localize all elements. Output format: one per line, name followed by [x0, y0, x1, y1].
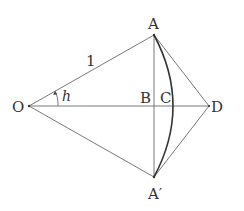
- label-radius: 1: [86, 52, 96, 70]
- segment-OA-prime: [29, 106, 154, 177]
- point-O-dot: [28, 105, 30, 107]
- point-D-dot: [208, 105, 210, 107]
- label-D: D: [211, 98, 223, 116]
- label-A-prime: A′: [147, 185, 163, 203]
- label-angle-h: h: [62, 88, 71, 104]
- label-O: O: [12, 98, 24, 116]
- label-B: B: [140, 89, 151, 107]
- label-C: C: [160, 89, 171, 107]
- point-A-prime-dot: [153, 176, 155, 178]
- label-A: A: [147, 15, 159, 33]
- point-A-dot: [153, 34, 155, 36]
- segment-OA: [29, 35, 154, 106]
- segment-A-prime-D: [154, 106, 209, 177]
- geometry-diagram: O A A′ B C D 1 h: [0, 0, 244, 211]
